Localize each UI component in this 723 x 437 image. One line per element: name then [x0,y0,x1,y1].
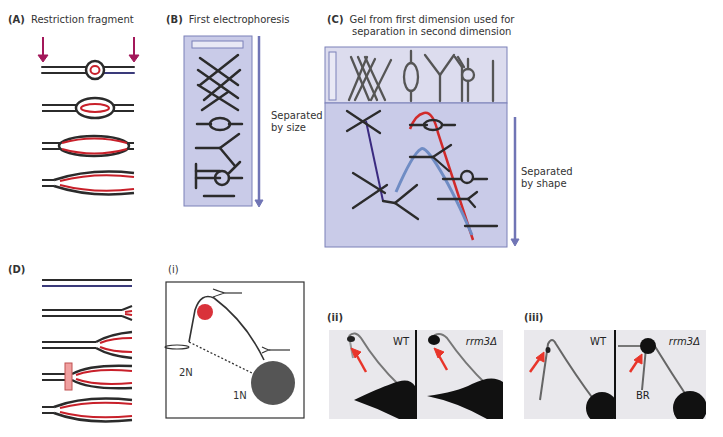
panel-a-diagram [0,0,180,200]
gel-label-rrm3: rrm3Δ [669,336,700,347]
arrow-label-line1: Separated [271,110,323,122]
panel-d-diagram [0,250,150,437]
label-2n: 2N [179,367,193,379]
panel-c-arrow-label: Separated by shape [521,166,573,190]
gel-image-ii-rrm3: rrm3Δ [417,330,503,419]
panel-iii-letter: (iii) [524,312,543,323]
replication-bubble-small [42,61,134,79]
panel-b-label: (B)First electrophoresis [166,14,290,26]
panel-c-gel [325,45,555,255]
label-1n: 1N [233,390,247,402]
1n-spot [251,361,295,405]
gel-label-rrm3-text: rrm3Δ [466,336,497,347]
panel-i-letter: (i) [168,264,179,275]
gel-label-wt: WT [590,336,606,347]
panel-i-schematic [166,282,316,432]
panel-c-title-line1: Gel from first dimension used for [349,14,514,25]
run-direction-arrow-c [511,117,519,246]
panel-b-arrow-label: Separated by size [271,110,323,134]
gel-image-iii-rrm3: rrm3Δ BR [616,330,706,419]
panel-iii-label: (iii) [524,312,549,324]
gel-label-wt: WT [393,336,409,347]
replication-bubble-almost-complete [42,172,134,195]
panel-b-title: First electrophoresis [189,14,290,25]
bubble-spot-red [197,304,213,320]
arrow-label-line1: Separated [521,166,573,178]
fork-barrier-block [65,363,72,390]
gel-label-br: BR [636,390,650,401]
gel-well [192,41,243,48]
arrow-label-line2: by shape [521,178,573,190]
panel-ii-letter: (ii) [327,312,343,323]
restriction-cut-arrow-right [129,37,139,62]
gel-image-iii-wt: WT [524,330,614,419]
restriction-cut-arrow-left [38,37,48,62]
panel-i-label: (i) [168,264,179,276]
gel-image-ii-wt: WT [329,330,415,419]
replication-bubble-large [42,136,134,156]
panel-c-letter: (C) [327,14,343,25]
replication-bubble-medium [42,98,134,118]
panel-c-title-line2: separation in second dimension [327,26,514,38]
run-direction-arrow-b [255,36,263,207]
gel-label-rrm3: rrm3Δ [466,336,497,347]
arrow-label-line2: by size [271,122,323,134]
panel-b-letter: (B) [166,14,183,25]
gel-label-rrm3-text: rrm3Δ [669,336,700,347]
panel-ii-label: (ii) [327,312,349,324]
panel-c-label: (C)Gel from first dimension used for sep… [327,14,514,38]
